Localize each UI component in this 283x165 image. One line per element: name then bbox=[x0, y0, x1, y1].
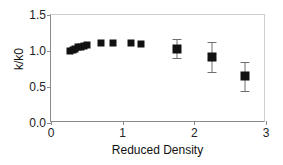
data-point bbox=[98, 40, 105, 47]
error-bar-cap bbox=[173, 58, 182, 59]
x-tick-label: 2 bbox=[191, 126, 198, 140]
y-axis-label: k/k0 bbox=[12, 39, 26, 79]
plot-area: 0.00.51.01.5 0123 bbox=[50, 14, 265, 122]
x-tick bbox=[194, 121, 195, 125]
y-tick-label: 1.5 bbox=[29, 8, 46, 22]
error-bar-cap bbox=[240, 91, 249, 92]
error-bar-cap bbox=[208, 42, 217, 43]
y-tick-label: 0.5 bbox=[29, 80, 46, 94]
x-tick-label: 3 bbox=[263, 126, 270, 140]
data-point bbox=[109, 40, 116, 47]
y-tick bbox=[47, 87, 51, 88]
x-tick bbox=[123, 121, 124, 125]
data-point bbox=[138, 40, 145, 47]
y-tick bbox=[47, 51, 51, 52]
x-axis-label: Reduced Density bbox=[50, 143, 265, 157]
y-tick bbox=[47, 15, 51, 16]
x-tick bbox=[266, 121, 267, 125]
data-point bbox=[240, 72, 249, 81]
error-bar-cap bbox=[208, 72, 217, 73]
data-point bbox=[208, 52, 217, 61]
data-point bbox=[128, 40, 135, 47]
error-bar-cap bbox=[240, 62, 249, 63]
y-tick-label: 0.0 bbox=[29, 116, 46, 130]
data-point bbox=[83, 42, 90, 49]
error-bar-cap bbox=[173, 39, 182, 40]
x-tick-label: 1 bbox=[119, 126, 126, 140]
data-point bbox=[173, 44, 182, 53]
y-tick-label: 1.0 bbox=[29, 44, 46, 58]
x-tick-label: 0 bbox=[48, 126, 55, 140]
chart-figure: k/k0 Reduced Density 0.00.51.01.5 0123 bbox=[0, 0, 283, 165]
x-tick bbox=[51, 121, 52, 125]
